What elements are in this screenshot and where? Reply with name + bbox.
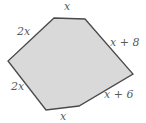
- side-label-top: x: [64, 1, 70, 12]
- side-label-lower-right: x + 6: [104, 89, 133, 100]
- side-label-upper-right: x + 8: [110, 37, 139, 48]
- hexagon-diagram: [0, 0, 146, 123]
- side-label-upper-left: 2x: [17, 26, 30, 37]
- side-label-lower-left: 2x: [11, 81, 24, 92]
- side-label-bottom: x: [60, 111, 66, 122]
